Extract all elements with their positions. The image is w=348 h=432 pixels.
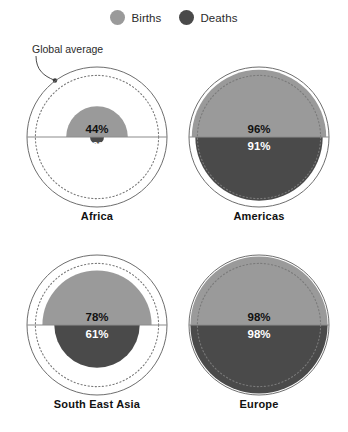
births-value-label: 44% bbox=[85, 123, 108, 135]
panel-americas: 96%91%Americas bbox=[175, 60, 343, 220]
panel-caption: Americas bbox=[175, 210, 343, 222]
births-value-label: 78% bbox=[85, 311, 108, 323]
chart-legend: Births Deaths bbox=[0, 10, 348, 25]
deaths-value-label: 91% bbox=[247, 140, 270, 152]
legend-item-deaths: Deaths bbox=[179, 10, 237, 25]
deaths-value-label: 98% bbox=[247, 328, 270, 340]
panel-south-east-asia: 78%61%South East Asia bbox=[13, 248, 181, 413]
gauge-africa: 44%10% bbox=[13, 60, 181, 200]
legend-label-births: Births bbox=[131, 12, 161, 24]
chart-canvas: Births Deaths Global average 44%10%Afric… bbox=[0, 0, 348, 432]
deaths-value-label: 10% bbox=[85, 140, 108, 152]
gauge-americas: 96%91% bbox=[175, 60, 343, 200]
circle-marker-births-icon bbox=[110, 10, 125, 25]
panel-africa: 44%10%Africa bbox=[13, 60, 181, 220]
panel-caption: Africa bbox=[13, 210, 181, 222]
births-value-label: 96% bbox=[247, 123, 270, 135]
births-value-label: 98% bbox=[247, 311, 270, 323]
circle-marker-deaths-icon bbox=[179, 10, 194, 25]
footnote-strip bbox=[0, 426, 348, 432]
panel-caption: South East Asia bbox=[13, 398, 181, 410]
gauge-south-east-asia: 78%61% bbox=[13, 248, 181, 388]
panel-europe: 98%98%Europe bbox=[175, 248, 343, 413]
legend-item-births: Births bbox=[110, 10, 161, 25]
legend-label-deaths: Deaths bbox=[200, 12, 237, 24]
gauge-europe: 98%98% bbox=[175, 248, 343, 388]
panel-caption: Europe bbox=[175, 398, 343, 410]
deaths-value-label: 61% bbox=[85, 328, 108, 340]
